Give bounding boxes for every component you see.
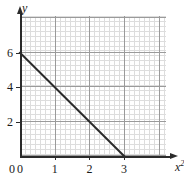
y-axis-line xyxy=(20,14,22,156)
x-axis-title: x2 xyxy=(175,160,184,173)
x-axis-line xyxy=(20,156,170,158)
x-tick-mark xyxy=(124,156,125,160)
x-tick-label: 1 xyxy=(52,163,58,175)
data-series-line xyxy=(0,0,184,182)
x-tick-mark xyxy=(55,156,56,160)
y-tick-label: 6 xyxy=(7,47,13,59)
y-tick-mark xyxy=(16,87,20,88)
x-tick-label: 3 xyxy=(121,163,127,175)
x-axis-title-exponent: 2 xyxy=(180,159,184,168)
y-tick-label: 2 xyxy=(7,116,13,128)
y-tick-label: 4 xyxy=(7,81,13,93)
x-tick-label: 2 xyxy=(86,163,92,175)
chart-figure: 01232460 y x2 xyxy=(0,0,184,182)
y-tick-mark xyxy=(16,53,20,54)
origin-label: 0 xyxy=(9,163,15,175)
x-axis-arrow-icon xyxy=(170,153,178,159)
y-tick-mark xyxy=(16,122,20,123)
y-axis-title: y xyxy=(22,2,27,14)
x-tick-mark xyxy=(89,156,90,160)
x-tick-label: 0 xyxy=(17,163,23,175)
